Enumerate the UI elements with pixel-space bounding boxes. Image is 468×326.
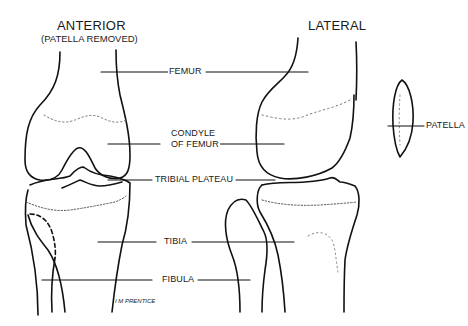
lateral-femur-outline-back	[256, 38, 354, 179]
anterior-tibia-left-edge	[25, 190, 38, 315]
tibia-label: TIBIA	[163, 237, 188, 246]
anterior-femur-growth-line	[44, 115, 126, 122]
lateral-femur-outline-front	[356, 42, 357, 100]
patella-outline	[393, 80, 413, 157]
anterior-fibula-inner	[52, 258, 55, 312]
anterior-femur-outline	[25, 50, 130, 180]
anterior-fibula-dashed	[30, 214, 55, 258]
condyle-label-line2: OF FEMUR	[170, 140, 220, 149]
lateral-tibia-front-edge	[257, 185, 285, 312]
femur-label: FEMUR	[168, 67, 203, 76]
patella-dotted	[399, 95, 400, 145]
artist-signature: I M PRENTICE	[114, 298, 156, 304]
knee-anatomy-diagram: ANTERIOR (PATELLA REMOVED) LATERAL FEMUR…	[0, 0, 468, 326]
patella-label: PATELLA	[425, 121, 466, 130]
lateral-view-title: LATERAL	[307, 19, 367, 32]
lateral-tibia-outline	[262, 178, 359, 312]
condyle-label-line1: CONDYLE	[170, 129, 216, 138]
lateral-femur-growth-line	[262, 100, 350, 119]
anterior-view-subtitle: (PATELLA REMOVED)	[40, 34, 139, 44]
fibula-label: FIBULA	[161, 275, 195, 284]
lateral-fibula-outline	[225, 199, 267, 312]
lateral-tibia-growth-line	[262, 200, 357, 205]
anterior-tibial-eminence	[62, 180, 122, 188]
anterior-tibia-outline	[30, 167, 130, 312]
tibial-plateau-label: TRIBIAL PLATEAU	[154, 175, 234, 184]
anterior-view-title: ANTERIOR	[56, 19, 127, 32]
anterior-tibia-growth-line	[26, 196, 126, 211]
knee-bones-drawing	[0, 0, 468, 326]
lateral-tibia-tuberosity-dotted	[308, 233, 338, 272]
